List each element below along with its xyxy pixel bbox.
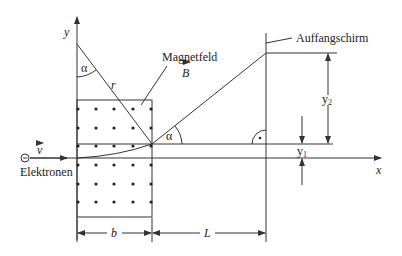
field-dot bbox=[112, 182, 115, 185]
field-dot bbox=[94, 163, 97, 166]
field-dot bbox=[94, 107, 97, 110]
field-symbol-label: B bbox=[182, 67, 189, 79]
right-angle-arc bbox=[252, 130, 266, 144]
field-name-label: Magnetfeld bbox=[162, 51, 217, 63]
field-dot bbox=[131, 107, 134, 110]
electron-deflection-diagram: y x α r Magnetfeld B Auffangschirm α v E… bbox=[0, 0, 402, 256]
radius-label: r bbox=[111, 79, 116, 91]
field-dot bbox=[112, 200, 115, 203]
field-dot bbox=[131, 126, 134, 129]
field-dot bbox=[94, 182, 97, 185]
field-dot bbox=[131, 200, 134, 203]
field-dot bbox=[94, 200, 97, 203]
field-dot bbox=[112, 126, 115, 129]
field-dot bbox=[149, 107, 152, 110]
field-dot bbox=[131, 144, 134, 147]
electrons-label: Elektronen bbox=[20, 166, 73, 178]
field-dot bbox=[112, 107, 115, 110]
alpha-arc-exit bbox=[175, 126, 182, 144]
field-dot bbox=[131, 163, 134, 166]
field-dot bbox=[76, 107, 79, 110]
y-axis-label: y bbox=[64, 26, 69, 38]
field-dot bbox=[76, 126, 79, 129]
field-dot bbox=[76, 144, 79, 147]
field-dot bbox=[94, 144, 97, 147]
x-axis-label: x bbox=[376, 164, 381, 176]
screen-label: Auffangschirm bbox=[296, 32, 368, 44]
width-b-label: b bbox=[111, 227, 117, 239]
y1-label: y1 bbox=[297, 145, 307, 159]
velocity-label: v bbox=[37, 144, 42, 156]
field-dot bbox=[76, 200, 79, 203]
field-dot bbox=[149, 163, 152, 166]
y2-label: y2 bbox=[322, 93, 332, 107]
field-dot bbox=[149, 144, 152, 147]
field-dot bbox=[112, 163, 115, 166]
field-dot bbox=[76, 163, 79, 166]
field-dots bbox=[76, 107, 152, 203]
field-dot bbox=[149, 126, 152, 129]
field-dot bbox=[149, 182, 152, 185]
field-dot bbox=[94, 126, 97, 129]
field-dot bbox=[131, 182, 134, 185]
distance-L-label: L bbox=[204, 227, 211, 239]
field-dot bbox=[149, 200, 152, 203]
alpha-exit-label: α bbox=[166, 130, 172, 142]
alpha-top-label: α bbox=[81, 62, 87, 74]
field-dot bbox=[112, 144, 115, 147]
field-dot bbox=[76, 182, 79, 185]
